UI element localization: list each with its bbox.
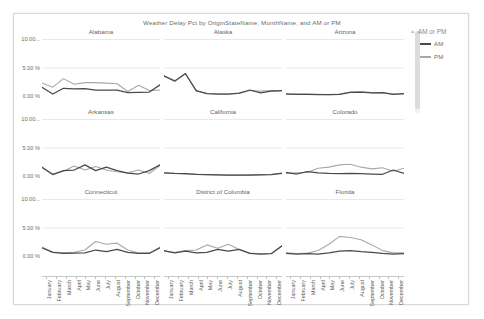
- x-axis-tick-label: December: [154, 280, 160, 305]
- x-axis-tick-mark: [227, 276, 228, 279]
- legend-swatch-icon: [420, 43, 431, 45]
- x-axis-tick-mark: [188, 276, 189, 279]
- x-axis-tick: March: [184, 276, 193, 319]
- x-axis-tick-mark: [154, 276, 155, 279]
- panel-title: District of Columbia: [164, 188, 282, 195]
- series-line-am: [42, 85, 160, 94]
- panel-connecticut: Connecticut: [42, 188, 160, 260]
- panel-california: California: [164, 108, 282, 180]
- series-line-am: [286, 92, 404, 95]
- x-axis-tick-mark: [266, 276, 267, 279]
- panel-alaska: Alaska: [164, 28, 282, 100]
- panel-colorado: Colorado: [286, 108, 404, 180]
- panel-florida: Florida: [286, 188, 404, 260]
- x-axis-tick-mark: [276, 276, 277, 279]
- panel-title: California: [164, 108, 282, 115]
- small-multiples-grid: AlabamaAlaskaArizonaArkansasCaliforniaCo…: [14, 28, 414, 273]
- y-axis-tick-label: 10.00...: [21, 196, 40, 202]
- y-axis-tick-label: 0.00 %: [23, 93, 40, 99]
- x-axis-tick-mark: [398, 276, 399, 279]
- x-axis-tick: October: [131, 276, 140, 319]
- y-axis-tick-label: 10.00...: [21, 116, 40, 122]
- x-axis-tick: January: [286, 276, 295, 319]
- x-axis-tick: September: [365, 276, 374, 319]
- report-visual-frame: Weather Delay Pct by OriginStateName, Mo…: [13, 13, 469, 305]
- x-axis-tick: February: [52, 276, 61, 319]
- x-axis-tick-label: December: [276, 280, 282, 305]
- x-axis-tick-mark: [217, 276, 218, 279]
- x-axis-tick: May: [325, 276, 334, 319]
- panel-title: Arkansas: [42, 108, 160, 115]
- panel-plot-area[interactable]: [42, 199, 160, 256]
- panel-plot-area[interactable]: [286, 199, 404, 256]
- x-axis-tick-mark: [379, 276, 380, 279]
- x-axis-tick-mark: [105, 276, 106, 279]
- chart-title: Weather Delay Pct by OriginStateName, Mo…: [14, 19, 470, 26]
- x-axis-tick: August: [233, 276, 242, 319]
- panel-title: Connecticut: [42, 188, 160, 195]
- x-axis-tick-label: December: [398, 280, 404, 305]
- x-axis-tick: January: [164, 276, 173, 319]
- legend: ▲ AM or PM AMPM: [409, 28, 463, 66]
- y-axis-tick-label: 5.00 %: [23, 145, 40, 151]
- panel-alabama: Alabama: [42, 28, 160, 100]
- y-axis-tick-label: 0.00 %: [23, 253, 40, 259]
- panel-plot-area[interactable]: [164, 199, 282, 256]
- x-axis-tick-mark: [115, 276, 116, 279]
- x-axis-tick: October: [253, 276, 262, 319]
- x-axis-tick-mark: [168, 276, 169, 279]
- x-axis-tick-mark: [95, 276, 96, 279]
- x-axis-tick-mark: [66, 276, 67, 279]
- x-axis-tick-mark: [320, 276, 321, 279]
- legend-title: AM or PM: [418, 28, 463, 35]
- x-axis-col-2: JanuaryFebruaryMarchAprilMayJuneJulyAugu…: [286, 276, 404, 319]
- panel-plot-area[interactable]: [286, 39, 404, 96]
- y-axis-row-0: 10.00...5.00 %0.00 %: [14, 39, 42, 96]
- series-line-pm: [164, 74, 282, 94]
- x-axis-tick: October: [375, 276, 384, 319]
- x-axis-tick-mark: [76, 276, 77, 279]
- legend-item-label: PM: [434, 53, 443, 60]
- x-axis-tick-mark: [135, 276, 136, 279]
- x-axis-tick-mark: [388, 276, 389, 279]
- x-axis-tick-mark: [198, 276, 199, 279]
- x-axis-tick: January: [42, 276, 51, 319]
- y-axis-row-1: 10.00...5.00 %0.00 %: [14, 119, 42, 176]
- panel-plot-area[interactable]: [286, 119, 404, 176]
- x-axis-tick: June: [213, 276, 222, 319]
- x-axis-tick: September: [243, 276, 252, 319]
- x-axis-tick-mark: [310, 276, 311, 279]
- x-axis-tick: April: [316, 276, 325, 319]
- x-axis-tick: August: [111, 276, 120, 319]
- panel-plot-area[interactable]: [164, 39, 282, 96]
- x-axis-tick: July: [223, 276, 232, 319]
- x-axis-tick-mark: [369, 276, 370, 279]
- panel-title: Colorado: [286, 108, 404, 115]
- x-axis-tick: April: [72, 276, 81, 319]
- y-axis-tick-label: 5.00 %: [23, 225, 40, 231]
- x-axis-tick: September: [121, 276, 130, 319]
- legend-item-pm[interactable]: PM: [420, 53, 463, 60]
- legend-item-label: AM: [434, 40, 443, 47]
- panel-plot-area[interactable]: [42, 119, 160, 176]
- x-axis-tick: December: [272, 276, 281, 319]
- x-axis-ticks: JanuaryFebruaryMarchAprilMayJuneJulyAugu…: [286, 276, 404, 319]
- chevron-up-icon[interactable]: ▲: [410, 28, 415, 34]
- x-axis-tick: June: [335, 276, 344, 319]
- panel-plot-area[interactable]: [42, 39, 160, 96]
- x-axis-tick-mark: [329, 276, 330, 279]
- x-axis-tick-mark: [178, 276, 179, 279]
- panel-arizona: Arizona: [286, 28, 404, 100]
- x-axis-tick-mark: [257, 276, 258, 279]
- legend-item-am[interactable]: AM: [420, 40, 463, 47]
- y-axis-tick-label: 0.00 %: [23, 173, 40, 179]
- x-axis-tick-mark: [349, 276, 350, 279]
- panel-title: Arizona: [286, 28, 404, 35]
- panel-plot-area[interactable]: [164, 119, 282, 176]
- x-axis-tick: April: [194, 276, 203, 319]
- x-axis-tick-mark: [290, 276, 291, 279]
- x-axis-tick: March: [306, 276, 315, 319]
- x-axis-tick-mark: [46, 276, 47, 279]
- panel-title: Alaska: [164, 28, 282, 35]
- series-line-am: [42, 165, 160, 175]
